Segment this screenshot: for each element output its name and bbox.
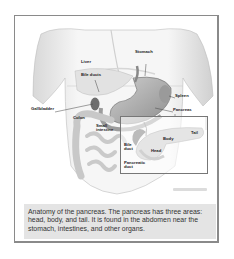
label-liver: Liver <box>81 60 91 65</box>
image-credit <box>173 188 207 191</box>
figure-caption: Anatomy of the pancreas. The pancreas ha… <box>24 204 216 239</box>
inset-label-head: Head <box>151 149 161 154</box>
label-spleen: Spleen <box>175 94 189 99</box>
label-stomach: Stomach <box>135 50 153 55</box>
pancreas-inset: Body Tail Head Bile duct Pancreatic duct <box>120 116 208 174</box>
inset-label-body: Body <box>163 137 173 142</box>
inset-label-tail: Tail <box>191 131 198 136</box>
inset-label-bile-duct-2: duct <box>124 147 133 152</box>
label-pancreas: Pancreas <box>173 108 192 113</box>
label-bile-ducts: Bile ducts <box>81 73 101 78</box>
inset-label-pancreatic-duct-2: duct <box>124 165 133 170</box>
label-gallbladder: Gallbladder <box>31 107 54 112</box>
label-small-intestine-2: intestine <box>96 128 113 133</box>
label-colon: Colon <box>73 116 85 121</box>
figure-frame: Liver Stomach Bile ducts Spleen Gallblad… <box>14 15 219 243</box>
